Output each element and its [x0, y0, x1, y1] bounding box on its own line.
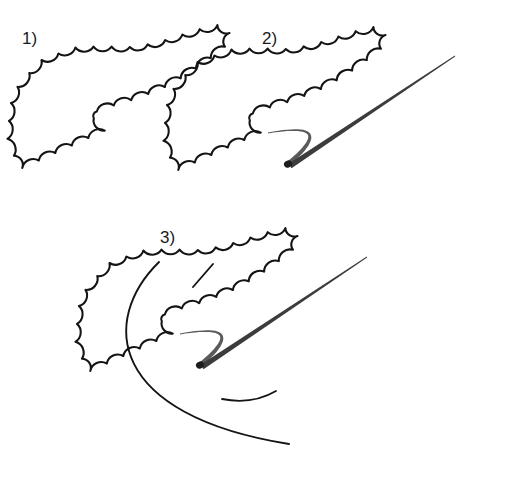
blob-outline-path [75, 228, 297, 371]
figure-container: 1) 2) 3) [0, 0, 507, 480]
three-step-drawing-canvas: 1) 2) 3) [0, 0, 507, 480]
panel-1-label: 1) [22, 29, 37, 48]
panel-3: 3) [160, 228, 175, 247]
panel-3-figure [75, 228, 367, 444]
secondary-duct-line [268, 129, 311, 166]
panel-1: 1) [22, 29, 37, 48]
secondary-duct-line [180, 330, 223, 367]
panel-2-label: 2) [262, 29, 277, 48]
inner-arc-curve [222, 391, 276, 401]
drawn-figures-layer [7, 25, 455, 444]
panel-3-label: 3) [160, 228, 175, 247]
panel-2: 2) [262, 29, 277, 48]
